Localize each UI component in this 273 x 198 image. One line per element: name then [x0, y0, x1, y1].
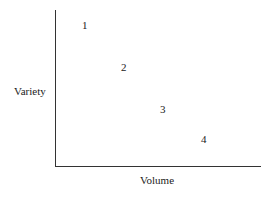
x-axis-label: Volume — [140, 174, 174, 186]
y-axis-label: Variety — [14, 85, 46, 97]
data-point-label: 4 — [201, 134, 207, 145]
data-point-label: 2 — [121, 62, 127, 73]
data-point-label: 3 — [160, 104, 166, 115]
x-axis-line — [55, 166, 261, 167]
data-point-label: 1 — [82, 20, 88, 31]
y-axis-line — [55, 10, 56, 167]
